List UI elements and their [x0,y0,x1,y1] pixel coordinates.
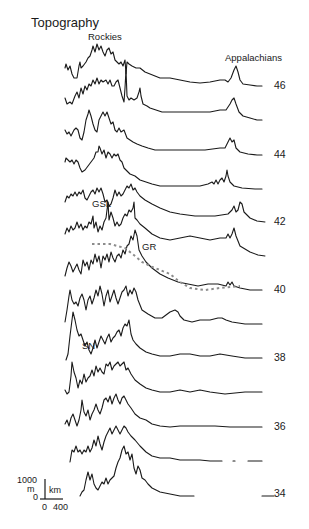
profile-46 [65,44,262,86]
profiles-plot [0,0,309,529]
profile-38 [66,312,262,360]
topography-figure: Topography Rockies Appalachians GSL GR S… [0,0,309,529]
profile-43 [65,146,262,189]
profile-36 [65,394,262,427]
profile-44 [65,110,262,155]
profile-42 [65,184,265,222]
profile-39 [65,286,262,324]
dotted-overlay-line [92,244,240,290]
profile-37 [65,362,262,394]
profile-34 [80,446,194,496]
profile-35 [70,426,222,462]
scale-bar [40,479,63,499]
